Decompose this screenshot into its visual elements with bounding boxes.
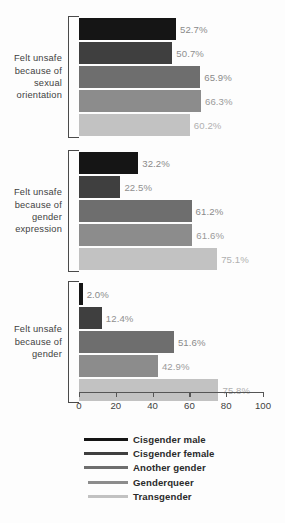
group-category-label-line: gender [0,211,62,223]
bar [79,90,201,112]
legend-swatch-wrap [0,481,133,484]
group-category-label-line: because of [0,65,62,77]
bar [79,224,192,246]
bar-value-label: 51.6% [178,337,206,348]
bar-value-label: 66.3% [205,96,233,107]
bar-value-label: 32.2% [142,158,170,169]
x-axis-tick-label: 40 [147,400,158,411]
x-axis-tick-label: 100 [255,400,271,411]
bar-value-label: 12.4% [106,313,134,324]
bar-group: Felt unsafebecause ofsexualorientation52… [0,18,285,136]
bar-chart: Felt unsafebecause ofsexualorientation52… [0,0,285,523]
legend-swatch-wrap [0,495,133,498]
bar-value-label: 52.7% [180,24,208,35]
legend-item[interactable]: Genderqueer [0,475,285,489]
bar-value-label: 42.9% [162,361,190,372]
legend-label: Transgender [133,491,192,502]
legend-swatch-wrap [0,438,133,441]
legend-item[interactable]: Transgender [0,490,285,504]
group-category-label: Felt unsafebecause ofgenderexpression [0,186,62,236]
bar [79,176,120,198]
legend-label: Genderqueer [133,477,194,488]
group-category-label: Felt unsafebecause ofgender [0,323,62,360]
x-axis-tick-label: 20 [110,400,121,411]
bar-value-label: 22.5% [124,182,152,193]
group-category-label-line: Felt unsafe [0,323,62,335]
group-category-label-line: because of [0,199,62,211]
bar-value-label: 61.6% [196,230,224,241]
group-category-label-line: gender [0,348,62,360]
bar-group: Felt unsafebecause ofgenderexpression32.… [0,152,285,270]
bar [79,42,172,64]
legend-swatch [84,466,128,469]
x-axis-line [79,392,263,393]
legend-item[interactable]: Cisgender male [0,432,285,446]
group-bracket [68,281,79,403]
group-category-label-line: because of [0,336,62,348]
group-category-label-line: orientation [0,89,62,101]
bar [79,331,174,353]
legend-item[interactable]: Cisgender female [0,446,285,460]
bar [79,66,200,88]
x-axis: 020406080100 [79,392,263,422]
bar [79,200,192,222]
group-bracket [68,150,79,272]
bar-value-label: 50.7% [176,48,204,59]
bar-value-label: 75.1% [221,254,249,265]
group-category-label: Felt unsafebecause ofsexualorientation [0,52,62,102]
x-axis-tick-label: 60 [184,400,195,411]
x-axis-tick [153,392,154,397]
group-category-label-line: Felt unsafe [0,186,62,198]
legend-item[interactable]: Another gender [0,461,285,475]
bar [79,283,83,305]
x-axis-tick [116,392,117,397]
group-category-label-line: sexual [0,77,62,89]
bar-value-label: 2.0% [87,289,109,300]
legend-swatch-wrap [0,466,133,469]
legend-swatch [84,438,128,441]
group-category-label-line: Felt unsafe [0,52,62,64]
bar-value-label: 60.2% [194,120,222,131]
x-axis-tick [189,392,190,397]
bar [79,114,190,136]
group-bracket [68,16,79,138]
x-axis-tick [79,392,80,397]
legend-swatch [88,495,128,498]
bar-group: Felt unsafebecause ofgender2.0%12.4%51.6… [0,283,285,401]
bar [79,248,217,270]
bar-value-label: 65.9% [204,72,232,83]
legend-label: Another gender [133,462,206,473]
bar [79,307,102,329]
bar [79,152,138,174]
bar-value-label: 61.2% [196,206,224,217]
legend-swatch [84,452,128,455]
x-axis-tick-label: 0 [76,400,81,411]
legend-label: Cisgender female [133,448,215,459]
x-axis-tick [263,392,264,397]
group-category-label-line: expression [0,223,62,235]
bar [79,355,158,377]
legend-label: Cisgender male [133,434,206,445]
chart-legend: Cisgender maleCisgender femaleAnother ge… [0,432,285,504]
legend-swatch [88,481,128,484]
bar [79,18,176,40]
x-axis-tick-label: 80 [221,400,232,411]
x-axis-tick [226,392,227,397]
legend-swatch-wrap [0,452,133,455]
